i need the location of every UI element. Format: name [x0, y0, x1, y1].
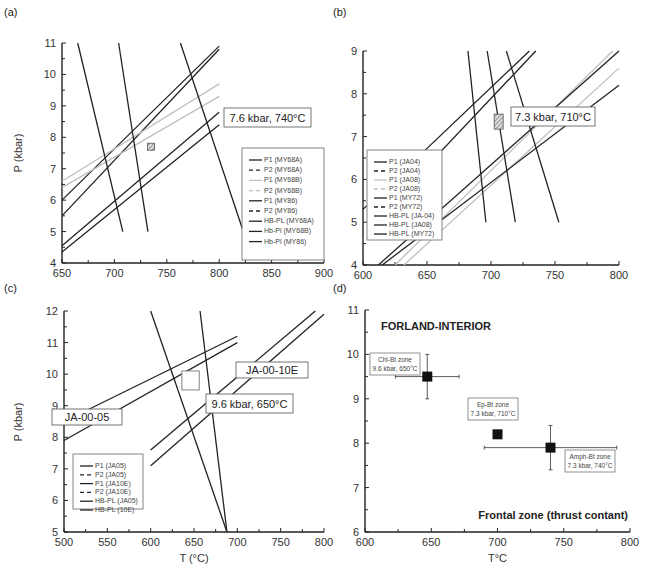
y-tick-label: 10 [44, 68, 56, 80]
y-tick-label: 4 [50, 257, 56, 269]
legend-entry: P1 (JA08) [389, 176, 420, 184]
legend-entry: P2 (MY86) [264, 207, 297, 215]
y-tick-label: 7 [52, 463, 58, 475]
data-point-marker [493, 429, 503, 439]
series-line [62, 96, 219, 187]
pt-estimate-box [148, 143, 155, 150]
y-tick-label: 7 [351, 131, 357, 143]
y-tick-label: 5 [351, 216, 357, 228]
x-tick-label: 700 [482, 269, 500, 281]
series-line [78, 43, 123, 232]
legend-entry: Hb-Pl (MY86) [264, 238, 306, 246]
legend-entry: P2 (JA08) [389, 185, 420, 193]
chart-panel-a: (a)6507007508008509004567891011P (kbar)7… [4, 6, 333, 279]
region-title-top: FORLAND-INTERIOR [381, 320, 491, 332]
y-tick-label: 9 [50, 100, 56, 112]
legend-entry: P2 (JA05) [95, 471, 126, 479]
legend-entry: HB-PL (MY72) [389, 230, 434, 238]
y-tick-label: 9 [351, 45, 357, 57]
legend-entry: HB-PL (JA-04) [389, 212, 434, 220]
y-tick-label: 11 [348, 304, 359, 316]
x-tick-label: 700 [488, 536, 506, 548]
y-tick-label: 7 [353, 482, 359, 494]
data-point-marker [546, 443, 556, 453]
y-tick-label: 12 [46, 305, 58, 317]
x-tick-label: 900 [315, 267, 333, 279]
series-line [64, 343, 237, 441]
legend-entry: HB-PL (JA08) [389, 221, 432, 229]
figure-canvas: (a)6507007508008509004567891011P (kbar)7… [0, 0, 655, 583]
chart-panel-b: (b)6006507007508004567897.3 kbar, 710°CP… [333, 6, 628, 281]
series-line [151, 311, 316, 450]
zone-label: Amph-Bt zone [569, 453, 611, 461]
x-tick-label: 750 [555, 536, 573, 548]
chart-panel-c: (c)50055060065070075080056789101112P (kb… [4, 282, 333, 564]
y-tick-label: 8 [52, 431, 58, 443]
panel-label: (c) [4, 282, 17, 294]
series-line [62, 46, 219, 200]
y-tick-label: 7 [50, 163, 56, 175]
y-tick-label: 5 [50, 226, 56, 238]
legend-entry: P2 (MY68B) [264, 187, 302, 195]
chart-panel-d: (d)60065070075080067891011T°CFORLAND-INT… [333, 282, 639, 564]
zone-label: Chl-Bt zone [378, 356, 412, 363]
x-tick-label: 850 [262, 267, 280, 279]
data-point-marker [422, 372, 432, 382]
y-tick-label: 5 [52, 526, 58, 538]
x-tick-label: 700 [228, 536, 246, 548]
pt-annotation: 7.3 kbar, 710°C [515, 111, 591, 123]
legend-entry: P2 (MY68A) [264, 166, 302, 174]
x-tick-label: 550 [98, 536, 116, 548]
y-tick-label: 10 [347, 348, 359, 360]
legend-entry: Hb-Pl (MY68B) [264, 227, 311, 235]
x-tick-label: 800 [621, 536, 639, 548]
x-tick-label: 700 [105, 267, 123, 279]
zone-pt-label: 7.3 kbar, 710°C [471, 410, 516, 417]
x-tick-label: 800 [315, 536, 333, 548]
legend-entry: P1 (MY86) [264, 197, 297, 205]
sample-label: JA-00-10E [246, 364, 298, 376]
legend-entry: P1 (MY68B) [264, 176, 302, 184]
region-title-bottom: Frontal zone (thrust contant) [478, 509, 628, 521]
y-tick-label: 11 [45, 37, 56, 49]
legend-entry: HB-PL (JA05) [95, 497, 138, 505]
x-tick-label: 750 [546, 269, 564, 281]
y-tick-label: 4 [351, 259, 357, 271]
y-tick-label: 9 [353, 393, 359, 405]
x-tick-label: 750 [271, 536, 289, 548]
x-tick-label: 600 [141, 536, 159, 548]
y-tick-label: 10 [46, 368, 58, 380]
y-tick-label: 11 [47, 337, 58, 349]
zone-label: Ep-Bt zone [477, 401, 510, 409]
zone-pt-label: 7.3 kbar, 740°C [568, 462, 613, 469]
x-tick-label: 650 [418, 269, 436, 281]
x-tick-label: 800 [610, 269, 628, 281]
x-tick-label: 750 [158, 267, 176, 279]
x-axis-label: T°C [488, 552, 507, 564]
legend-entry: HB-PL (MY68A) [264, 217, 314, 225]
series-line [200, 311, 227, 532]
y-tick-label: 6 [50, 194, 56, 206]
pt-annotation: 9.6 kbar, 650°C [212, 398, 288, 410]
y-tick-label: 6 [351, 173, 357, 185]
legend-entry: P1 (JA04) [389, 158, 420, 166]
x-tick-label: 800 [210, 267, 228, 279]
x-axis-label: T (°C) [179, 552, 208, 564]
panel-label: (b) [333, 6, 346, 18]
x-tick-label: 650 [422, 536, 440, 548]
legend-entry: P2 (MY72) [389, 203, 422, 211]
legend-entry: HB-PL (10E) [95, 506, 134, 514]
series-line [468, 51, 486, 222]
panel-label: (a) [4, 6, 17, 18]
legend-entry: P1 (MY68A) [264, 156, 302, 164]
y-tick-label: 8 [50, 131, 56, 143]
sample-label: JA-00-05 [65, 411, 110, 423]
y-tick-label: 8 [351, 88, 357, 100]
legend-entry: P1 (JA05) [95, 462, 126, 470]
legend-entry: P1 (MY72) [389, 194, 422, 202]
y-tick-label: 8 [353, 437, 359, 449]
zone-pt-label: 9.6 kbar, 650°C [373, 365, 418, 372]
legend-entry: P1 (JA10E) [95, 480, 131, 488]
series-line [151, 311, 227, 532]
x-tick-label: 650 [185, 536, 203, 548]
